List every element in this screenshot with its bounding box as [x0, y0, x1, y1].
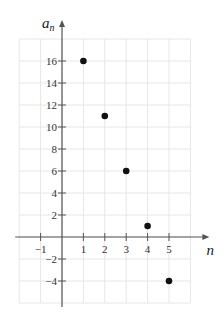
x-tick-label: 5	[166, 243, 172, 255]
x-tick-label: 1	[81, 243, 87, 255]
y-tick-label: −2	[45, 253, 57, 265]
x-axis-label: n	[206, 242, 214, 258]
y-tick-label: 12	[46, 99, 57, 111]
y-axis-label-subscript: n	[50, 22, 55, 33]
y-tick-label: 2	[52, 209, 58, 221]
y-axis-label: an	[42, 15, 55, 33]
x-tick-label: 2	[102, 243, 108, 255]
x-tick-label: 4	[145, 243, 151, 255]
x-axis-arrow-icon	[202, 234, 209, 240]
y-axis-arrow-icon	[59, 20, 65, 27]
data-point	[166, 278, 173, 285]
y-tick-label: −4	[45, 275, 57, 287]
x-tick-label: 3	[123, 243, 129, 255]
y-tick-label: 10	[46, 121, 58, 133]
data-point	[80, 58, 87, 65]
data-point	[144, 223, 151, 230]
y-tick-label: 4	[52, 187, 58, 199]
y-tick-label: 16	[46, 55, 58, 67]
scatter-chart: −112345−4−2246810121416 n an	[0, 0, 224, 323]
data-point	[123, 168, 130, 175]
y-axis-label-main: a	[42, 15, 50, 31]
data-point	[102, 113, 109, 120]
y-tick-label: 6	[52, 165, 58, 177]
y-tick-label: 8	[52, 143, 58, 155]
y-tick-label: 14	[46, 77, 58, 89]
